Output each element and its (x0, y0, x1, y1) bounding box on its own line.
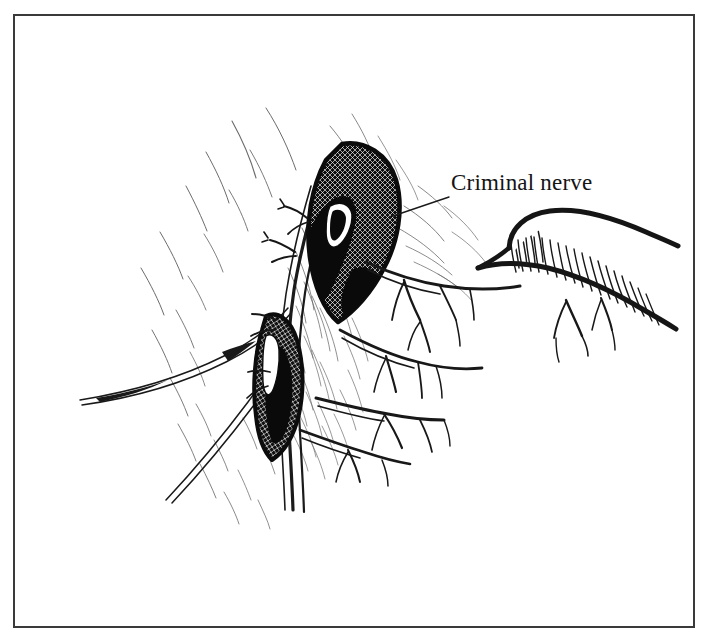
criminal-nerve-label: Criminal nerve (451, 170, 592, 196)
anatomical-drawing-canvas (0, 0, 709, 642)
paper-background (0, 0, 709, 642)
illustration-figure: Criminal nerve (0, 0, 709, 642)
